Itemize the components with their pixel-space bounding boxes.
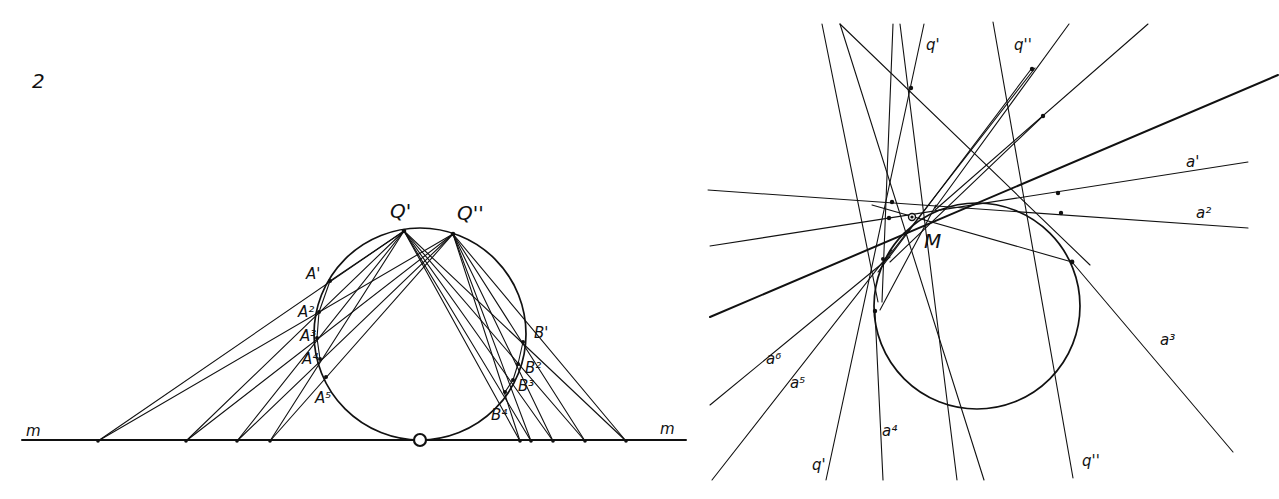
line-q1 [826,24,924,480]
figure-canvas: 2 m m [0,0,1279,499]
line-a1 [710,162,1248,246]
line-left-vertical [822,24,878,302]
figure-number: 2 [32,69,45,93]
label-B2: B² [525,359,541,377]
tangent-point-marker [414,434,426,446]
label-A3: A³ [299,327,316,345]
label-A4: A⁴ [301,350,318,368]
label-q2-top: q'' [1014,36,1032,54]
label-a6: a⁶ [766,350,781,368]
label-a2: a² [1196,204,1211,222]
left-panel: 2 m m [22,69,686,446]
line-a2 [708,190,1248,228]
label-a3: a³ [1160,331,1175,349]
line-q2 [993,22,1073,478]
label-B4: B⁴ [491,406,507,424]
label-m-left: m [26,422,41,440]
line-a3 [1072,262,1233,452]
label-a4: a⁴ [882,422,897,440]
right-panel: M q' q'' q' q'' a' a² a³ a⁴ a⁵ a⁶ [708,22,1278,480]
label-A5: A⁵ [314,389,331,407]
label-B3: B³ [518,377,534,395]
label-A1: A' [305,265,320,283]
label-q1-top: q' [926,36,940,54]
line-a5 [712,250,892,480]
label-M: M [924,229,941,253]
right-points [873,67,1075,313]
geometry-figure: 2 m m [0,0,1279,499]
label-q2-bottom: q'' [1082,452,1100,470]
label-a5: a⁵ [790,374,805,392]
label-a1: a' [1186,153,1199,171]
label-A2: A² [297,303,314,321]
label-q1-bottom: q' [812,456,826,474]
label-Q2: Q'' [457,201,484,225]
label-B1: B' [534,324,548,342]
label-m-right: m [660,420,675,438]
label-Q1: Q' [390,199,411,223]
ray-to-upper-point [890,116,1043,262]
ray-to-q2-point-2 [884,68,1035,262]
